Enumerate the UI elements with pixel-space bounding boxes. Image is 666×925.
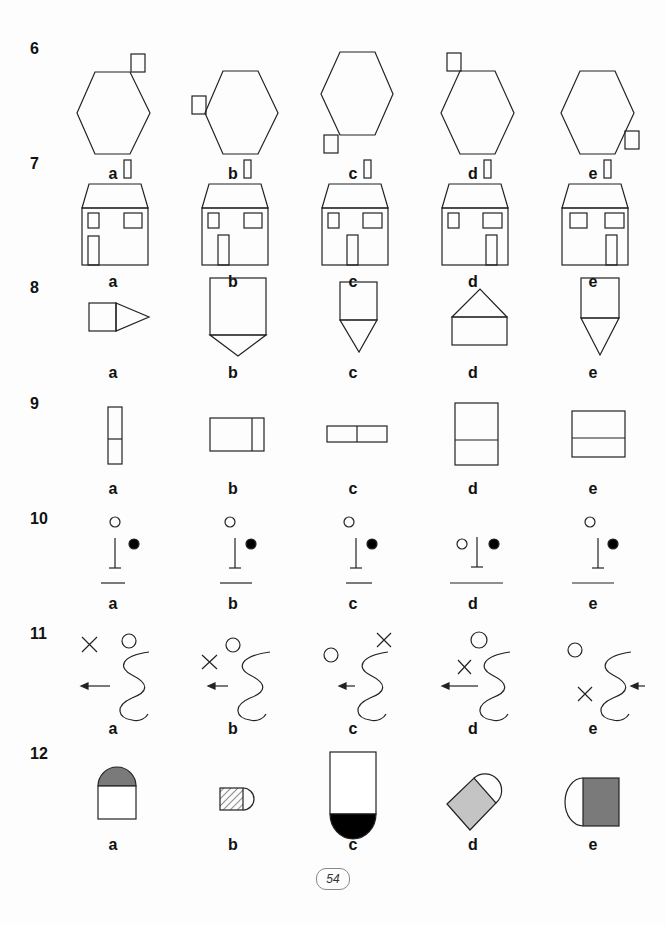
q7-option-a-label[interactable]: a <box>98 273 128 291</box>
q6-option-e-label[interactable]: e <box>578 165 608 183</box>
q12-option-d-shape-icon <box>447 774 502 830</box>
q6-option-b-hexagon-icon <box>192 71 278 154</box>
q7-option-b-label[interactable]: b <box>218 273 248 291</box>
q12-option-e-shape-icon <box>565 778 619 826</box>
q10-option-a-label[interactable]: a <box>98 595 128 613</box>
q11-option-d-wave-icon <box>442 632 510 721</box>
q9-option-c-rectangle-icon <box>327 426 387 442</box>
q6-option-e-hexagon-icon <box>561 71 639 154</box>
q12-option-b-shape-icon <box>220 788 254 810</box>
q6-option-b-label[interactable]: b <box>218 165 248 183</box>
q10-option-e-post-icon <box>572 517 618 583</box>
q8-option-d-shape-icon <box>452 289 507 345</box>
q8-option-c-label[interactable]: c <box>338 364 368 382</box>
q11-option-e-label[interactable]: e <box>578 720 608 738</box>
q11-option-c-label[interactable]: c <box>338 720 368 738</box>
q12-option-b-label[interactable]: b <box>218 836 248 854</box>
q11-option-e-wave-icon <box>568 643 645 721</box>
q6-option-a-hexagon-icon <box>77 54 150 154</box>
q9-option-a-rectangle-icon <box>108 407 122 464</box>
q10-option-b-post-icon <box>220 517 256 583</box>
q8-option-a-label[interactable]: a <box>98 364 128 382</box>
question-figures <box>0 0 666 925</box>
q10-option-b-label[interactable]: b <box>218 595 248 613</box>
q12-option-c-shape-icon <box>330 752 376 839</box>
q9-option-c-label[interactable]: c <box>338 480 368 498</box>
q10-option-c-post-icon <box>344 517 377 583</box>
q7-option-e-label[interactable]: e <box>578 273 608 291</box>
q9-option-b-label[interactable]: b <box>218 480 248 498</box>
page-number: 54 <box>316 868 350 890</box>
q10-option-a-post-icon <box>101 517 139 583</box>
q6-option-c-label[interactable]: c <box>338 165 368 183</box>
q9-option-e-rectangle-icon <box>572 411 625 457</box>
q11-option-d-label[interactable]: d <box>458 720 488 738</box>
q7-option-c-label[interactable]: c <box>338 273 368 291</box>
q8-option-a-shape-icon <box>89 303 149 331</box>
q10-option-d-post-icon <box>450 537 503 583</box>
q6-option-d-hexagon-icon <box>441 53 514 154</box>
q12-option-e-label[interactable]: e <box>578 836 608 854</box>
q8-option-c-shape-icon <box>340 282 377 352</box>
q11-option-b-label[interactable]: b <box>218 720 248 738</box>
q6-option-d-label[interactable]: d <box>458 165 488 183</box>
q10-option-e-label[interactable]: e <box>578 595 608 613</box>
q6-option-c-hexagon-icon <box>321 52 393 153</box>
q9-option-b-rectangle-icon <box>210 418 264 451</box>
q12-option-d-label[interactable]: d <box>458 836 488 854</box>
q6-option-a-label[interactable]: a <box>98 165 128 183</box>
q9-option-d-rectangle-icon <box>455 403 498 465</box>
q7-option-d-label[interactable]: d <box>458 273 488 291</box>
q9-option-e-label[interactable]: e <box>578 480 608 498</box>
q8-option-e-label[interactable]: e <box>578 364 608 382</box>
q11-option-a-label[interactable]: a <box>98 720 128 738</box>
q12-option-a-shape-icon <box>98 767 136 819</box>
q11-option-a-wave-icon <box>81 634 149 721</box>
q9-option-a-label[interactable]: a <box>98 480 128 498</box>
q8-option-d-label[interactable]: d <box>458 364 488 382</box>
q11-option-c-wave-icon <box>324 633 391 721</box>
q12-option-a-label[interactable]: a <box>98 836 128 854</box>
q12-option-c-label[interactable]: c <box>338 836 368 854</box>
q9-option-d-label[interactable]: d <box>458 480 488 498</box>
q10-option-d-label[interactable]: d <box>458 595 488 613</box>
q10-option-c-label[interactable]: c <box>338 595 368 613</box>
q11-option-b-wave-icon <box>202 638 270 721</box>
q8-option-b-label[interactable]: b <box>218 364 248 382</box>
